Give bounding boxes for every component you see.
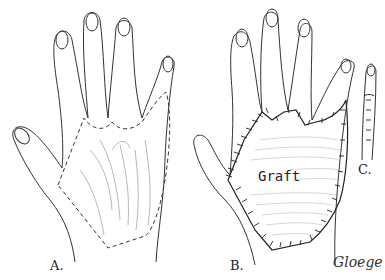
panel-b-label: B.	[230, 258, 244, 273]
artist-signature: Gloege	[333, 254, 383, 270]
illustration-drawing	[0, 0, 385, 280]
dashed-scar-boundary	[58, 92, 170, 248]
hand-b-outline	[194, 9, 376, 265]
graft-label: Graft	[258, 168, 300, 184]
panel-a-label: A.	[50, 258, 64, 273]
hand-graft-illustration: A. B. C. Graft Gloege	[0, 0, 385, 280]
hand-a-outline	[12, 13, 175, 263]
panel-c-label: C.	[358, 162, 372, 177]
